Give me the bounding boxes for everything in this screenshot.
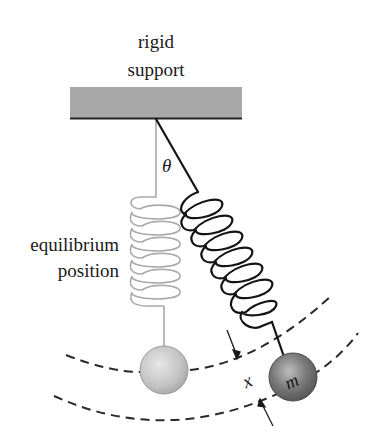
support-label-line1: rigid	[138, 31, 174, 52]
outer-arc	[66, 355, 140, 372]
equilibrium-label-line2: position	[58, 260, 120, 281]
equilibrium-label-line1: equilibrium	[30, 234, 119, 255]
support-label-line2: support	[128, 59, 186, 80]
rigid-support	[70, 87, 242, 119]
angle-theta-label: θ	[162, 155, 171, 176]
equilibrium-mass	[140, 346, 188, 394]
arc-paths	[54, 295, 358, 420]
equilibrium-spring	[130, 119, 180, 346]
outer-arc-right	[190, 295, 332, 370]
displacement-x-label: x	[238, 369, 256, 392]
spring-pendulum-diagram: rigid support θ x m equilibrium posit	[0, 0, 385, 441]
displaced-spring	[156, 119, 283, 354]
